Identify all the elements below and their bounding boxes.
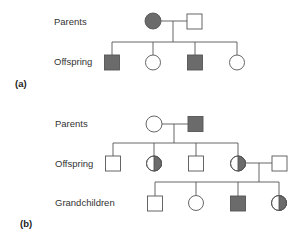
panel-a-parent-female-affected — [145, 13, 161, 29]
panel-a-offspring-female-unaffected — [146, 55, 161, 70]
panel-a-offspring-male-affected — [105, 55, 120, 70]
panel-a-offspring-female-unaffected — [230, 55, 245, 70]
panel-a-offspring-male-affected — [188, 55, 203, 70]
panel-b-offspring-female-carrier — [231, 156, 246, 171]
panel-b-parent-male-affected — [188, 117, 203, 132]
panel-b-offspring-male-unaffected — [106, 156, 121, 171]
panel-b-grandchild-female-unaffected — [189, 196, 204, 211]
panel-b-parent-female-unaffected — [146, 116, 162, 132]
panel-a-parent-male-unaffected — [187, 14, 202, 29]
pedigree-figure: Parents Offspring (a) Parents Offspring … — [0, 0, 307, 239]
panel-b-grandchild-male-unaffected — [148, 196, 163, 211]
panel-b-spouse-male-unaffected — [272, 156, 287, 171]
panel-b-offspring-male-unaffected — [189, 156, 204, 171]
panel-b-grandchild-female-carrier — [272, 196, 287, 211]
pedigree-chart — [0, 0, 307, 239]
panel-b-offspring-female-carrier — [147, 156, 162, 171]
panel-b-grandchild-male-affected — [231, 196, 246, 211]
